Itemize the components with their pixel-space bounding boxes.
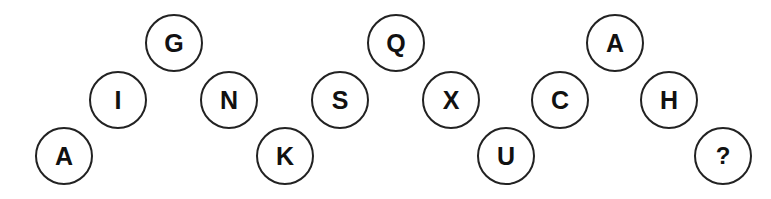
node-letter: I [115, 88, 122, 113]
node-letter: K [276, 144, 294, 169]
circle-node-6: S [311, 71, 369, 129]
node-letter: X [443, 88, 460, 113]
circle-node-5: K [256, 127, 314, 185]
node-letter: U [497, 144, 515, 169]
missing-node-question: ? [694, 127, 752, 185]
node-letter: G [164, 31, 183, 56]
circle-node-1: A [35, 127, 93, 185]
node-letter: A [606, 31, 624, 56]
node-letter: C [551, 88, 569, 113]
node-letter: Q [386, 31, 405, 56]
node-letter: H [660, 88, 678, 113]
circle-node-4: N [200, 71, 258, 129]
node-letter: N [220, 88, 238, 113]
circle-node-7: Q [367, 14, 425, 72]
circle-node-10: C [531, 71, 589, 129]
question-mark: ? [716, 144, 731, 168]
node-letter: A [55, 144, 73, 169]
circle-node-2: I [89, 71, 147, 129]
circle-node-8: X [422, 71, 480, 129]
circle-node-9: U [477, 127, 535, 185]
circle-node-3: G [145, 14, 203, 72]
letter-sequence-puzzle: A I G N K S Q X U C A H ? [0, 0, 771, 199]
circle-node-11: A [586, 14, 644, 72]
node-letter: S [332, 88, 349, 113]
circle-node-12: H [640, 71, 698, 129]
